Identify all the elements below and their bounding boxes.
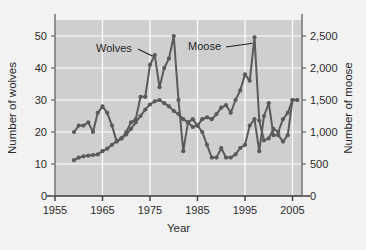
data-point-moose	[119, 136, 123, 140]
y-axis-left-tick-label: 20	[35, 126, 47, 138]
data-point-moose	[96, 152, 100, 156]
data-point-wolves	[214, 156, 218, 160]
y-axis-right-tick-label: 0	[310, 190, 316, 202]
data-point-moose	[191, 125, 195, 129]
data-point-moose	[172, 109, 176, 113]
chart-figure: 0102030405005001,0001,5002,0002,50019551…	[0, 0, 366, 250]
data-point-moose	[148, 102, 152, 106]
y-axis-right-tick-label: 2,500	[310, 30, 338, 42]
data-point-wolves	[210, 156, 214, 160]
data-point-moose	[138, 114, 142, 118]
data-point-wolves	[148, 63, 152, 67]
data-point-moose	[271, 127, 275, 131]
data-point-wolves	[238, 146, 242, 150]
data-point-wolves	[176, 98, 180, 102]
data-point-moose	[162, 101, 166, 105]
data-point-moose	[200, 117, 204, 121]
data-point-wolves	[91, 130, 95, 134]
data-point-moose	[205, 115, 209, 119]
data-point-wolves	[191, 117, 195, 121]
data-point-moose	[238, 88, 242, 92]
y-axis-right-tick-label: 500	[310, 158, 328, 170]
data-point-moose	[81, 154, 85, 158]
x-axis-tick-label: 1975	[138, 204, 162, 216]
data-point-moose	[105, 147, 109, 151]
data-point-moose	[115, 139, 119, 143]
data-point-wolves	[243, 143, 247, 147]
data-point-wolves	[72, 130, 76, 134]
data-point-moose	[267, 136, 271, 140]
y-axis-right-title: Number of moose	[342, 62, 354, 153]
x-axis-tick-label: 2005	[280, 204, 304, 216]
y-axis-left-title: Number of wolves	[6, 62, 18, 154]
data-point-moose	[134, 120, 138, 124]
data-point-moose	[290, 98, 294, 102]
data-point-moose	[124, 132, 128, 136]
y-axis-left-tick-label: 0	[41, 190, 47, 202]
data-point-wolves	[77, 124, 81, 128]
data-point-moose	[143, 108, 147, 112]
data-point-wolves	[86, 120, 90, 124]
x-axis-tick-label: 1985	[185, 204, 209, 216]
data-point-wolves	[153, 53, 157, 57]
data-point-moose	[110, 143, 114, 147]
y-axis-left-tick-label: 30	[35, 94, 47, 106]
x-axis-title: Year	[167, 222, 190, 234]
data-point-moose	[167, 104, 171, 108]
data-point-wolves	[286, 133, 290, 137]
data-point-wolves	[252, 117, 256, 121]
data-point-wolves	[219, 146, 223, 150]
data-point-moose	[219, 106, 223, 110]
data-point-wolves	[224, 156, 228, 160]
data-point-wolves	[157, 85, 161, 89]
data-point-moose	[77, 156, 81, 160]
data-point-wolves	[138, 95, 142, 99]
data-point-moose	[181, 117, 185, 121]
data-point-wolves	[229, 156, 233, 160]
data-point-moose	[210, 117, 214, 121]
moose-series-label: Moose	[188, 40, 221, 52]
data-point-wolves	[205, 143, 209, 147]
data-point-wolves	[129, 120, 133, 124]
data-point-moose	[157, 98, 161, 102]
data-point-moose	[72, 158, 76, 162]
data-point-moose	[295, 98, 299, 102]
y-axis-left-tick-label: 40	[35, 62, 47, 74]
data-point-wolves	[172, 34, 176, 38]
data-point-wolves	[167, 56, 171, 60]
data-point-moose	[281, 117, 285, 121]
data-point-wolves	[200, 130, 204, 134]
data-point-moose	[214, 112, 218, 116]
data-point-moose	[276, 130, 280, 134]
data-point-moose	[257, 118, 261, 122]
data-point-wolves	[100, 104, 104, 108]
data-point-wolves	[96, 111, 100, 115]
wolves-series-label: Wolves	[96, 42, 132, 54]
x-axis-tick-label: 1965	[90, 204, 114, 216]
data-point-wolves	[248, 124, 252, 128]
data-point-wolves	[110, 124, 114, 128]
data-point-moose	[243, 72, 247, 76]
data-point-wolves	[143, 95, 147, 99]
data-point-moose	[100, 149, 104, 153]
data-point-moose	[233, 98, 237, 102]
data-point-moose	[224, 103, 228, 107]
data-point-wolves	[162, 66, 166, 70]
data-point-wolves	[257, 149, 261, 153]
data-point-moose	[262, 138, 266, 142]
data-point-moose	[252, 35, 256, 39]
data-point-moose	[91, 153, 95, 157]
data-point-moose	[195, 124, 199, 128]
data-point-moose	[153, 99, 157, 103]
data-point-moose	[186, 120, 190, 124]
y-axis-left-tick-label: 10	[35, 158, 47, 170]
data-point-wolves	[281, 140, 285, 144]
data-point-wolves	[81, 124, 85, 128]
data-point-moose	[129, 127, 133, 131]
data-point-wolves	[233, 152, 237, 156]
y-axis-right-tick-label: 1,500	[310, 94, 338, 106]
data-point-wolves	[181, 149, 185, 153]
y-axis-right-tick-label: 2,000	[310, 62, 338, 74]
y-axis-right-tick-label: 1,000	[310, 126, 338, 138]
data-point-moose	[286, 111, 290, 115]
